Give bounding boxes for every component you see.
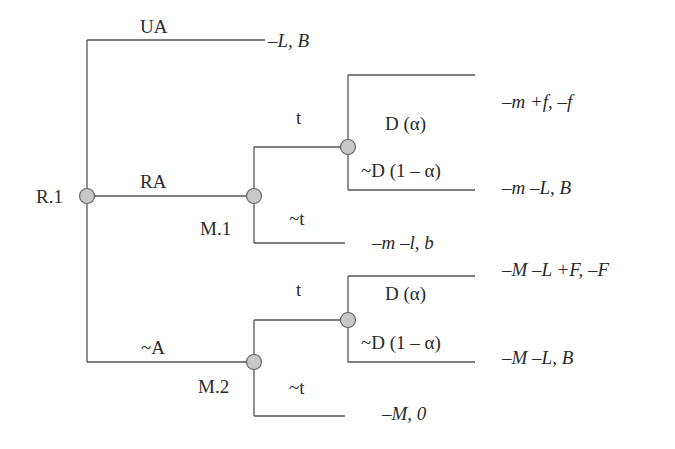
node-d2 (341, 313, 356, 328)
label-m1: M.1 (200, 218, 231, 239)
payoff-d2-d: –M –L +F, –F (501, 259, 610, 280)
payoff-ua: –L, B (267, 30, 310, 51)
payoff-d1-d: –m +f, –f (501, 91, 575, 112)
edge-label-m1-not-t: ~t (289, 208, 305, 229)
edge-label-ua: UA (140, 16, 168, 37)
edge-label-d1-d: D (α) (385, 113, 426, 135)
payoff-d1-not-d: –m –L, B (501, 177, 572, 198)
edge-label-m1-t: t (296, 107, 302, 128)
edge-label-d1-not-d: ~D (1 – α) (361, 160, 441, 182)
edge-label-m2-not-t: ~t (289, 377, 305, 398)
payoff-m2-not-t: –M, 0 (381, 403, 427, 424)
edge-label-d2-not-d: ~D (1 – α) (361, 332, 441, 354)
edge-label-m2-t: t (296, 279, 302, 300)
node-m2 (247, 355, 262, 370)
payoff-d2-not-d: –M –L, B (501, 347, 574, 368)
game-tree-diagram: R.1 M.1 M.2 UA RA ~A t ~t t ~t D (α) ~D … (0, 0, 675, 449)
node-r1 (80, 189, 95, 204)
edge-label-d2-d: D (α) (385, 283, 426, 305)
node-d1 (341, 140, 356, 155)
label-r1: R.1 (36, 186, 63, 207)
payoff-m1-not-t: –m –l, b (371, 232, 434, 253)
label-m2: M.2 (198, 376, 229, 397)
edge-label-not-a: ~A (141, 337, 165, 358)
edge-label-ra: RA (140, 171, 167, 192)
node-m1 (247, 189, 262, 204)
